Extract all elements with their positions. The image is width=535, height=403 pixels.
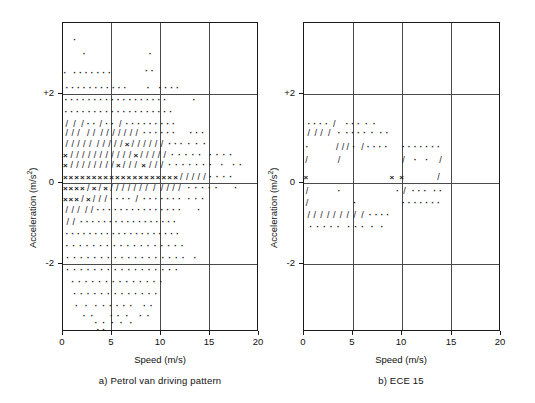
data-mark-dot: ·: [86, 243, 89, 250]
data-mark-slash: /: [178, 185, 181, 192]
gridline-y-zero-b: [304, 183, 499, 184]
data-mark-dot: ·: [126, 120, 129, 127]
data-mark-cross: ×: [138, 173, 143, 180]
data-mark-slash: /: [99, 185, 102, 192]
data-mark-slash: /: [105, 151, 108, 158]
data-mark-slash: /: [132, 140, 135, 147]
data-mark-slash: /: [123, 161, 126, 168]
data-mark-dot: ·: [408, 143, 411, 150]
xtick-20-b: [500, 331, 501, 335]
xtick-10-b: [401, 331, 402, 335]
data-mark-slash: /: [306, 199, 309, 206]
data-mark-cross: ×: [389, 173, 394, 180]
data-mark-dot: ·: [100, 84, 103, 91]
data-mark-cross: ×: [68, 173, 73, 180]
data-mark-dot: ·: [172, 196, 175, 203]
panel-caption-b: b) ECE 15: [378, 375, 424, 386]
data-mark-cross: ×: [63, 185, 68, 192]
data-mark-slash: /: [305, 156, 308, 163]
data-mark-dot: ·: [414, 143, 417, 150]
data-mark-cross: ×: [127, 173, 132, 180]
data-mark-dot: ·: [169, 108, 172, 115]
data-mark-dot: ·: [143, 207, 146, 214]
data-mark-dot: ·: [170, 84, 173, 91]
data-mark-dot: ·: [146, 279, 149, 286]
data-mark-dot: ·: [164, 231, 167, 238]
data-mark-dot: ·: [384, 143, 387, 150]
data-mark-dot: ·: [126, 279, 129, 286]
data-mark-dot: ·: [414, 199, 417, 206]
data-mark-dot: ·: [201, 185, 204, 192]
data-mark-dot: ·: [194, 185, 197, 192]
data-mark-dot: ·: [188, 185, 191, 192]
data-mark-dot: ·: [172, 120, 175, 127]
data-mark-dot: ·: [175, 255, 178, 262]
data-mark-dot: ·: [147, 243, 150, 250]
data-mark-slash: /: [439, 156, 442, 163]
data-mark-slash: /: [100, 161, 103, 168]
data-mark-cross: ×: [63, 161, 68, 168]
data-mark-dot: ·: [94, 108, 97, 115]
ytick-label-minus2-a: -2: [34, 258, 54, 268]
data-mark-dot: ·: [73, 291, 76, 298]
data-mark-dot: ·: [99, 108, 102, 115]
xtick-label-0-a: 0: [59, 337, 64, 347]
data-mark-dot: ·: [80, 219, 83, 226]
data-mark-dot: ·: [168, 140, 171, 147]
data-mark-dot: ·: [65, 231, 68, 238]
xaxis-title-b: Speed (m/s): [375, 354, 427, 365]
data-mark-dot: ·: [123, 108, 126, 115]
data-mark-dot: ·: [198, 151, 201, 158]
data-mark-dot: ·: [173, 219, 176, 226]
data-mark-cross: ×: [92, 185, 97, 192]
data-mark-slash: /: [119, 120, 122, 127]
data-mark-dot: ·: [152, 96, 155, 103]
data-mark-dot: ·: [83, 231, 86, 238]
data-mark-slash: /: [117, 151, 120, 158]
data-mark-dot: ·: [131, 207, 134, 214]
data-mark-slash: /: [135, 196, 138, 203]
data-mark-dot: ·: [147, 84, 150, 91]
data-mark-dot: ·: [143, 196, 146, 203]
data-mark-dot: ·: [132, 279, 135, 286]
data-mark-dot: ·: [102, 303, 105, 310]
data-mark-slash: /: [70, 161, 73, 168]
data-mark-dot: ·: [161, 219, 164, 226]
data-mark-dot: ·: [354, 223, 357, 230]
data-mark-dot: ·: [137, 120, 140, 127]
data-mark-dot: ·: [102, 70, 105, 77]
data-mark-slash: /: [203, 173, 206, 180]
data-mark-dot: ·: [124, 84, 127, 91]
data-mark-slash: /: [327, 211, 330, 218]
data-mark-dot: ·: [373, 143, 376, 150]
data-mark-dot: ·: [174, 243, 177, 250]
data-mark-dot: ·: [92, 279, 95, 286]
data-mark-dot: ·: [216, 151, 219, 158]
data-mark-slash: /: [122, 185, 125, 192]
data-mark-dot: ·: [155, 255, 158, 262]
data-mark-dot: ·: [141, 291, 144, 298]
data-mark-slash: /: [89, 140, 92, 147]
ytick-zero-b: [299, 182, 303, 183]
data-mark-slash: /: [361, 211, 364, 218]
data-mark-cross: ×: [103, 173, 108, 180]
data-mark-dot: ·: [193, 255, 196, 262]
data-mark-slash: /: [73, 120, 76, 127]
data-mark-dot: ·: [129, 319, 132, 326]
data-mark-dot: ·: [357, 130, 360, 137]
data-mark-cross: ×: [141, 161, 146, 168]
data-mark-dot: ·: [423, 187, 426, 194]
data-mark-slash: /: [71, 207, 74, 214]
data-mark-dot: ·: [100, 291, 103, 298]
data-mark-dot: ·: [117, 108, 120, 115]
data-mark-dot: ·: [127, 267, 130, 274]
data-mark-dot: ·: [178, 151, 181, 158]
data-mark-dot: ·: [73, 36, 76, 43]
xtick-10-a: [160, 331, 161, 335]
data-mark-dot: ·: [155, 291, 158, 298]
data-mark-dot: ·: [92, 219, 95, 226]
data-mark-dot: ·: [105, 96, 108, 103]
data-mark-dot: ·: [147, 231, 150, 238]
data-mark-slash: /: [116, 185, 119, 192]
data-mark-slash: /: [308, 211, 311, 218]
